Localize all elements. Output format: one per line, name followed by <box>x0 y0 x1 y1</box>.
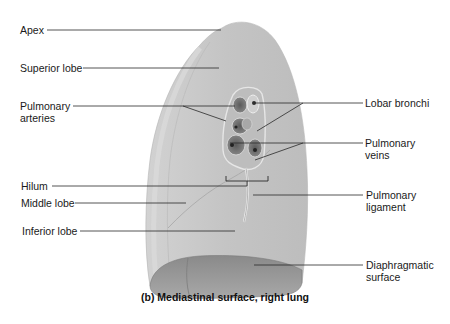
label-pulmonary-arteries: Pulmonary arteries <box>20 100 70 124</box>
label-pulmonary-ligament: Pulmonary ligament <box>366 189 416 213</box>
label-superior-lobe: Superior lobe <box>20 62 82 74</box>
label-pulmonary-ligament-line2: ligament <box>366 201 416 213</box>
label-apex: Apex <box>20 24 44 36</box>
label-inferior-lobe: Inferior lobe <box>22 225 77 237</box>
label-pulmonary-arteries-line1: Pulmonary <box>20 100 70 112</box>
label-pulmonary-veins-line2: veins <box>365 149 415 161</box>
label-diaphragmatic-surface-line2: surface <box>366 271 434 283</box>
label-middle-lobe: Middle lobe <box>21 197 75 209</box>
lung-diagram: Apex Superior lobe Pulmonary arteries Hi… <box>0 0 450 324</box>
label-diaphragmatic-surface: Diaphragmatic surface <box>366 259 434 283</box>
label-pulmonary-veins: Pulmonary veins <box>365 137 415 161</box>
label-pulmonary-ligament-line1: Pulmonary <box>366 189 416 201</box>
figure-caption: (b) Mediastinal surface, right lung <box>0 291 450 303</box>
label-lobar-bronchi: Lobar bronchi <box>365 97 429 109</box>
label-diaphragmatic-surface-line1: Diaphragmatic <box>366 259 434 271</box>
label-pulmonary-veins-line1: Pulmonary <box>365 137 415 149</box>
label-pulmonary-arteries-line2: arteries <box>20 112 70 124</box>
label-hilum: Hilum <box>21 180 48 192</box>
